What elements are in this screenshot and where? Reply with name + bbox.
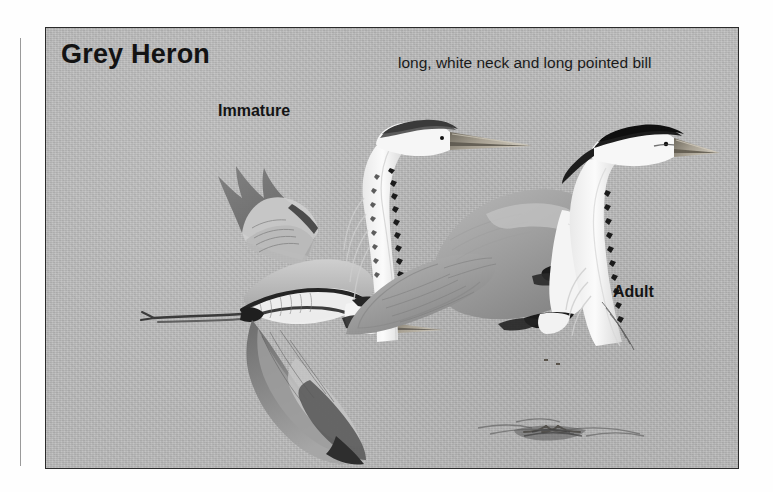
page: Grey Heron Immature Adult long, white ne… <box>0 0 773 492</box>
plate-title: Grey Heron <box>61 39 210 70</box>
label-adult: Adult <box>613 283 654 301</box>
label-feature-note: long, white neck and long pointed bill <box>398 54 651 72</box>
heron-illustration <box>46 28 738 468</box>
illustration-plate: Grey Heron Immature Adult long, white ne… <box>45 27 739 469</box>
page-left-rule <box>20 38 21 466</box>
label-immature: Immature <box>218 102 290 120</box>
figure-adult-standing <box>346 125 720 441</box>
